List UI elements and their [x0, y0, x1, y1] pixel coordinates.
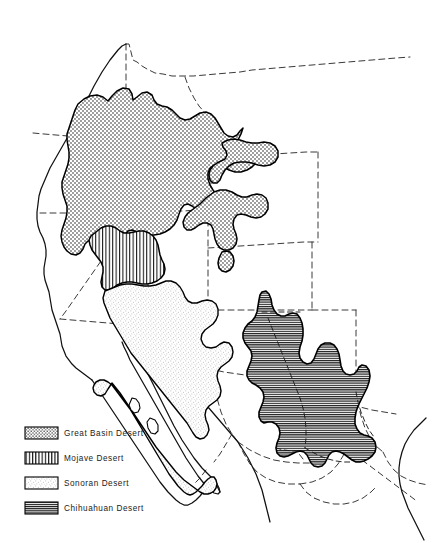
legend-item-mojave[interactable]: Mojave Desert: [25, 452, 124, 464]
legend-item-great-basin[interactable]: Great Basin Desert: [25, 427, 144, 439]
legend-label-great-basin: Great Basin Desert: [64, 429, 144, 438]
legend-label-sonoran: Sonoran Desert: [64, 479, 129, 488]
legend-swatch-mojave: [25, 452, 58, 464]
legend-swatch-great-basin: [25, 427, 58, 439]
legend-label-mojave: Mojave Desert: [64, 454, 124, 463]
legend-item-sonoran[interactable]: Sonoran Desert: [25, 477, 129, 489]
legend-swatch-chihuahuan: [25, 502, 58, 514]
legend-swatch-sonoran: [25, 477, 58, 489]
legend-item-chihuahuan[interactable]: Chihuahuan Desert: [25, 502, 144, 514]
legend-label-chihuahuan: Chihuahuan Desert: [64, 504, 144, 513]
great-basin-south-finger: [218, 251, 234, 272]
north-american-deserts-map: Great Basin Desert Mojave Desert Sonoran…: [0, 0, 435, 543]
